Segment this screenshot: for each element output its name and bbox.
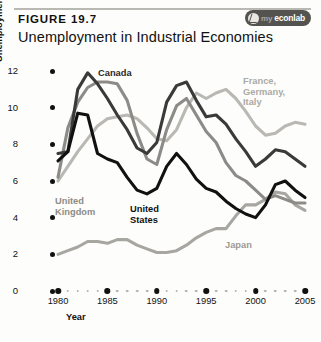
x-minor-dot-1987 — [126, 290, 129, 293]
y-tick-label-8: 8 — [0, 138, 18, 149]
figure-number: FIGURE 19.7 — [18, 13, 97, 25]
x-minor-dot-1982 — [76, 290, 79, 293]
series-label-japan: Japan — [225, 240, 252, 251]
x-minor-dot-1984 — [96, 290, 99, 293]
x-minor-dot-1988 — [136, 290, 139, 293]
x-minor-dot-1991 — [165, 290, 168, 293]
x-tick-dot-2000 — [253, 288, 259, 294]
x-minor-dot-1986 — [116, 290, 119, 293]
series-label-france-germany-italy: France, Germany, Italy — [243, 76, 285, 108]
myeconlab-logo[interactable]: my econlab — [245, 10, 311, 26]
x-tick-dot-1985 — [105, 288, 111, 294]
x-axis-title: Year — [66, 312, 86, 322]
x-minor-dot-1996 — [215, 290, 218, 293]
figure-header: FIGURE 19.7 Unemployment in Industrial E… — [0, 0, 321, 56]
x-minor-dot-1994 — [195, 290, 198, 293]
series-label-canada: Canada — [98, 68, 132, 79]
x-tick-label-1980: 1980 — [48, 296, 69, 306]
x-minor-dot-2002 — [274, 290, 277, 293]
x-tick-label-1995: 1995 — [196, 296, 217, 306]
x-minor-dot-1981 — [67, 290, 70, 293]
series-label-fgi-line1: France, — [243, 76, 285, 87]
x-tick-dot-1995 — [203, 288, 209, 294]
y-tick-label-2: 2 — [0, 248, 18, 259]
swirl-icon — [248, 13, 259, 24]
figure-container: FIGURE 19.7 Unemployment in Industrial E… — [0, 0, 321, 342]
x-tick-label-1990: 1990 — [146, 296, 167, 306]
y-tick-label-4: 4 — [0, 212, 18, 223]
x-tick-dot-2005 — [302, 288, 308, 294]
x-minor-dot-1992 — [175, 290, 178, 293]
y-tick-label-0: 0 — [0, 285, 18, 296]
x-tick-dot-1980 — [55, 288, 61, 294]
y-tick-label-12: 12 — [0, 65, 18, 76]
x-minor-dot-1993 — [185, 290, 188, 293]
series-label-fgi-line2: Germany, — [243, 87, 285, 98]
x-minor-dot-2004 — [294, 290, 297, 293]
x-tick-label-2000: 2000 — [245, 296, 266, 306]
series-label-uk-line1: United — [55, 196, 95, 207]
y-axis-title: Unemployment rate (percentage of labour … — [0, 0, 4, 62]
series-label-us-line1: United — [130, 204, 159, 215]
x-minor-dot-1989 — [146, 290, 149, 293]
figure-title: Unemployment in Industrial Economies — [18, 29, 273, 45]
x-minor-dot-1997 — [225, 290, 228, 293]
x-minor-dot-1999 — [244, 290, 247, 293]
series-label-united-kingdom: United Kingdom — [55, 196, 95, 217]
y-tick-label-10: 10 — [0, 102, 18, 113]
series-label-fgi-line3: Italy — [243, 97, 285, 108]
x-tick-dot-1990 — [154, 288, 160, 294]
x-minor-dot-1983 — [86, 290, 89, 293]
x-minor-dot-2001 — [264, 290, 267, 293]
series-label-us-line2: States — [130, 215, 159, 226]
x-tick-label-1985: 1985 — [97, 296, 118, 306]
series-label-uk-line2: Kingdom — [55, 207, 95, 218]
logo-suffix: econlab — [274, 13, 305, 23]
x-tick-label-2005: 2005 — [295, 296, 316, 306]
x-minor-dot-1998 — [235, 290, 238, 293]
series-label-united-states: United States — [130, 204, 159, 225]
x-minor-dot-2003 — [284, 290, 287, 293]
y-tick-label-6: 6 — [0, 175, 18, 186]
logo-prefix: my — [261, 14, 272, 23]
